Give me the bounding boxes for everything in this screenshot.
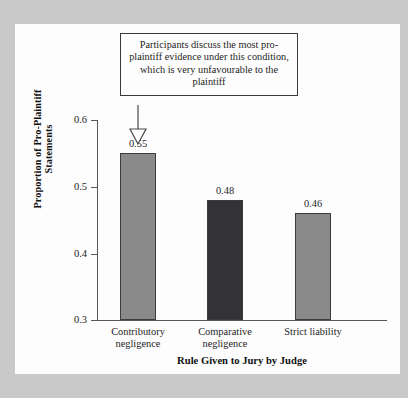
- x-category-label-contributory-negligence: Contributory negligence: [88, 326, 188, 350]
- callout-box: Participants discuss the most pro-plaint…: [120, 33, 298, 96]
- figure-page: 0.6 0.5 0.4 0.3 0.55 0.48 0.46 Contribut…: [0, 0, 408, 398]
- bar-value-comparative-negligence: 0.48: [197, 186, 253, 196]
- y-tick-label-2: 0.4: [47, 249, 87, 260]
- x-category-line-2: negligence: [88, 338, 188, 350]
- x-category-label-comparative-negligence: Comparative negligence: [175, 326, 275, 350]
- y-axis-title: Proportion of Pro-Plaintiff Statements: [32, 64, 54, 234]
- x-category-line-1: Strict liability: [263, 326, 363, 338]
- y-axis-line: [97, 120, 98, 321]
- x-category-line-2: negligence: [175, 338, 275, 350]
- y-tick-label-3: 0.3: [47, 315, 87, 326]
- bar-comparative-negligence: [207, 200, 243, 320]
- bar-chart: 0.6 0.5 0.4 0.3 0.55 0.48 0.46 Contribut…: [15, 24, 400, 374]
- bar-strict-liability: [295, 213, 331, 320]
- figure-panel: 0.6 0.5 0.4 0.3 0.55 0.48 0.46 Contribut…: [15, 24, 400, 374]
- x-axis-line: [97, 320, 387, 321]
- bar-contributory-negligence: [120, 153, 156, 320]
- x-category-line-1: Comparative: [175, 326, 275, 338]
- x-category-line-1: Contributory: [88, 326, 188, 338]
- x-category-label-strict-liability: Strict liability: [263, 326, 363, 338]
- bar-value-strict-liability: 0.46: [285, 199, 341, 209]
- x-axis-title: Rule Given to Jury by Judge: [97, 355, 387, 366]
- callout-arrow-icon: [125, 105, 151, 146]
